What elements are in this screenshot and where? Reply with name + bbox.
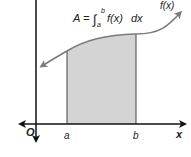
shaded-area (67, 34, 136, 124)
area-formula: A = ∫ b a f(x) dx (72, 7, 143, 28)
curve-label: f(x) (160, 0, 174, 11)
differential: dx (131, 12, 143, 24)
bound-b-label: b (133, 130, 139, 141)
integral-area-diagram: A = ∫ b a f(x) dx f(x) O a b x (0, 0, 191, 157)
lower-limit: a (97, 21, 101, 28)
x-axis-label: x (175, 128, 183, 140)
upper-limit: b (101, 7, 105, 14)
integrand: f(x) (107, 12, 123, 24)
formula-lhs: A = (72, 12, 90, 24)
origin-label: O (26, 126, 35, 138)
bound-a-label: a (64, 130, 70, 141)
function-curve-left-tail (42, 51, 67, 66)
